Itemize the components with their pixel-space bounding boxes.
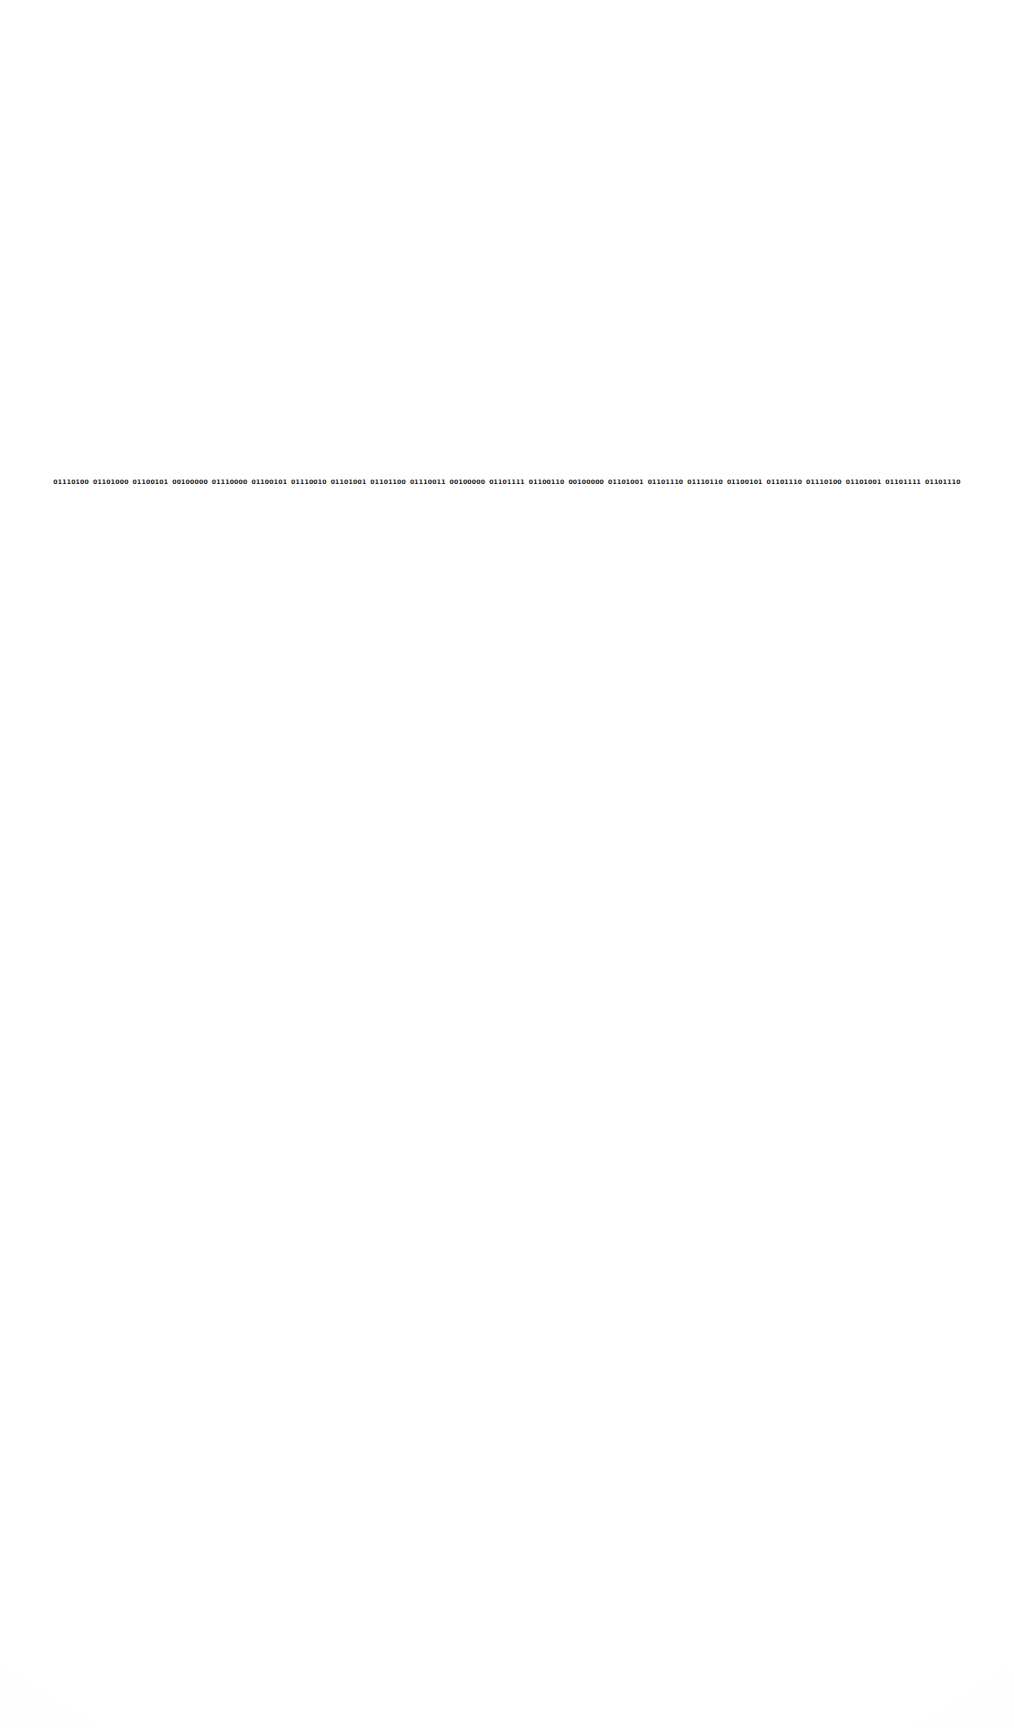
binary-encoded-text: 01110100 01101000 01100101 00100000 0111… xyxy=(53,480,960,486)
binary-text-row: 01110100 01101000 01100101 00100000 0111… xyxy=(0,476,1014,490)
page-canvas: 01110100 01101000 01100101 00100000 0111… xyxy=(0,0,1014,1728)
paper-texture-overlay xyxy=(0,0,1014,1728)
